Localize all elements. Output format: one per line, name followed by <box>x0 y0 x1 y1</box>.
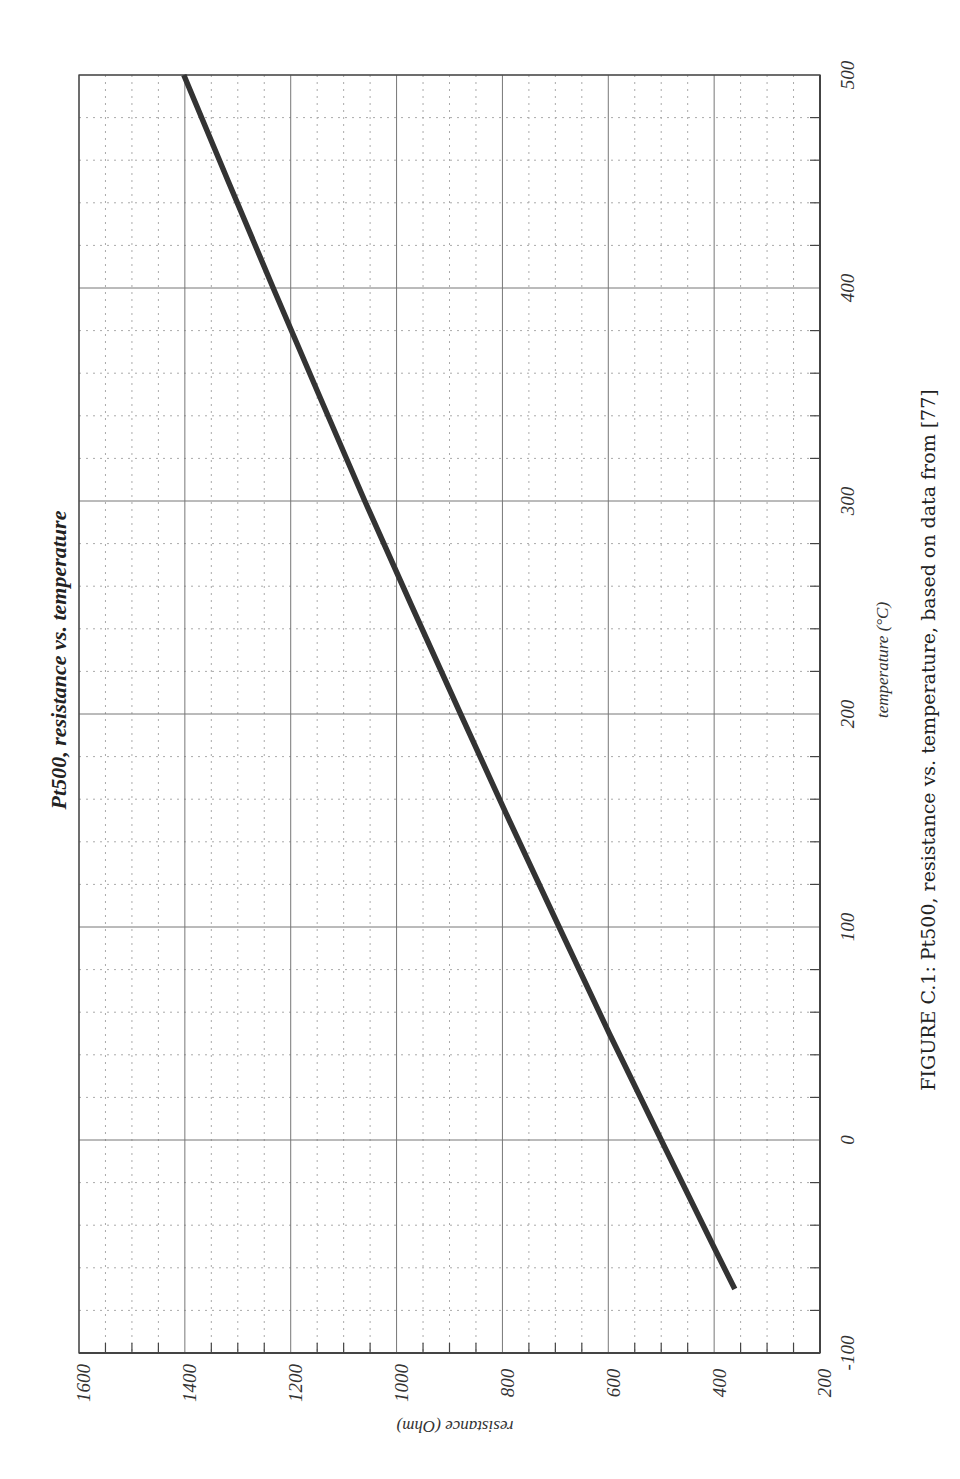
x-tick-label: 400 <box>837 273 858 302</box>
figure-caption: FIGURE C.1: Pt500, resistance vs. temper… <box>917 389 939 1090</box>
y-tick-label: 1400 <box>179 1364 200 1403</box>
x-tick-label: 200 <box>837 699 858 728</box>
y-axis-title: resistance (Ohm) <box>396 1417 513 1436</box>
x-tick-label: 300 <box>837 486 858 516</box>
chart-title: Pt500, resistance vs. temperature <box>46 510 71 810</box>
series-line-pt500 <box>184 75 735 1289</box>
y-tick-label: 1200 <box>285 1364 306 1403</box>
x-tick-label: -100 <box>837 1335 858 1370</box>
y-tick-label: 1600 <box>73 1364 94 1403</box>
x-tick-label: 500 <box>837 60 858 89</box>
y-tick-label: 400 <box>709 1368 730 1397</box>
data-series <box>184 75 735 1289</box>
ticks <box>105 118 820 1353</box>
x-axis-title: temperature (°C) <box>873 602 892 719</box>
y-tick-label: 800 <box>497 1368 518 1397</box>
y-tick-label: 200 <box>814 1368 835 1397</box>
y-tick-label: 1000 <box>391 1364 412 1403</box>
y-tick-label: 600 <box>603 1368 624 1397</box>
x-tick-label: 100 <box>837 912 858 941</box>
chart: 2004006008001000120014001600-10001002003… <box>0 0 960 1479</box>
x-tick-label: 0 <box>837 1135 858 1145</box>
